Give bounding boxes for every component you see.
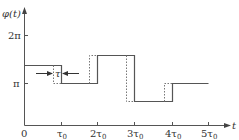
y-axis-label: φ(t) xyxy=(2,8,21,19)
phase-step-chart: τ φ(t) 2π π t 0 τ0 2τ0 3τ0 4τ0 5τ0 xyxy=(0,0,239,140)
tau-label: τ xyxy=(55,68,61,79)
x-ticks xyxy=(62,122,209,126)
y-axis-arrow-icon xyxy=(22,7,27,14)
y-tick-pi: π xyxy=(13,78,20,89)
x-tick-5: 5τ0 xyxy=(201,128,217,140)
dotted-phase-series xyxy=(54,56,173,102)
x-axis-arrow-icon xyxy=(224,123,231,128)
arrow-right-icon xyxy=(47,71,53,76)
x-tick-4: 4τ0 xyxy=(165,128,181,140)
x-tick-1: τ0 xyxy=(57,128,67,140)
x-tick-0: 0 xyxy=(21,128,27,139)
x-tick-2: 2τ0 xyxy=(90,128,106,140)
x-axis-label: t xyxy=(232,120,237,131)
x-tick-3: 3τ0 xyxy=(127,128,143,140)
y-tick-2pi: 2π xyxy=(8,30,21,41)
y-ticks xyxy=(25,36,29,84)
arrow-left-icon xyxy=(62,71,68,76)
solid-phase-series xyxy=(25,56,209,102)
